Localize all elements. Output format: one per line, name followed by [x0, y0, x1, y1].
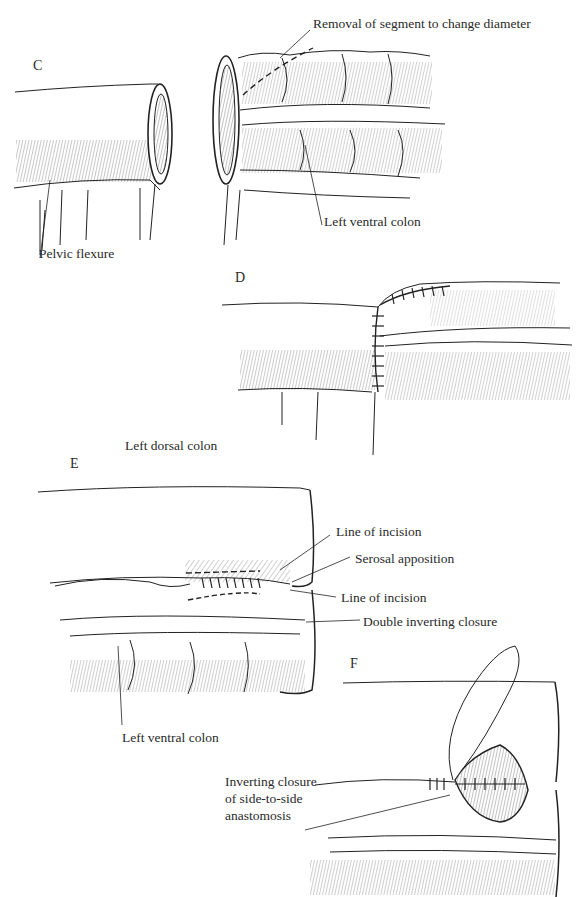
surgical-illustration — [0, 0, 581, 897]
label-double-inverting-closure: Double inverting closure — [363, 614, 497, 630]
panel-label-e: E — [70, 456, 79, 472]
label-removal-segment: Removal of segment to change diameter — [313, 16, 531, 32]
label-inverting-closure-line2: of side-to-side — [225, 791, 303, 807]
label-left-ventral-colon-c: Left ventral colon — [324, 214, 421, 230]
label-pelvic-flexure: Pelvic flexure — [39, 246, 114, 262]
panel-label-d: D — [235, 270, 245, 286]
panel-label-f: F — [350, 656, 358, 672]
label-line-of-incision-1: Line of incision — [336, 524, 421, 540]
panel-d-drawing — [222, 282, 572, 455]
label-inverting-closure-line1: Inverting closure — [225, 774, 317, 790]
label-inverting-closure-line3: anastomosis — [225, 808, 291, 824]
panel-e-drawing — [38, 487, 360, 725]
panel-f-drawing — [305, 646, 559, 897]
panel-c-drawing — [14, 84, 172, 255]
label-serosal-apposition: Serosal apposition — [355, 551, 454, 567]
label-left-ventral-colon-e: Left ventral colon — [122, 730, 219, 746]
panel-label-c: C — [33, 58, 42, 74]
label-left-dorsal-colon: Left dorsal colon — [125, 438, 217, 454]
label-line-of-incision-2: Line of incision — [341, 590, 426, 606]
